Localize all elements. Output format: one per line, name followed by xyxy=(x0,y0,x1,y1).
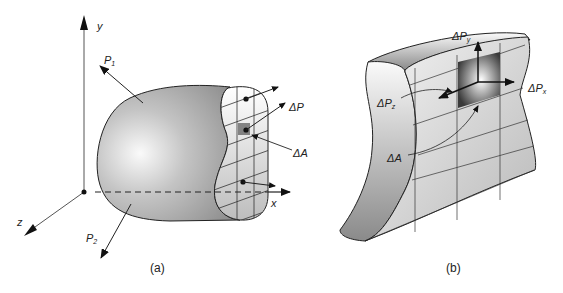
x-axis-label: x xyxy=(270,197,277,209)
delta-px-label: ΔPx xyxy=(527,82,547,95)
p1-label: P1 xyxy=(104,54,115,67)
stress-diagram: y x z P1 P2 ΔP ΔA (a) xyxy=(0,0,563,293)
force-p1-arrow xyxy=(100,66,143,103)
caption-a: (a) xyxy=(150,261,165,275)
delta-py-label: ΔPy xyxy=(451,30,471,44)
delta-p-label: ΔP xyxy=(288,101,304,113)
delta-a-label: ΔA xyxy=(292,147,308,159)
z-axis xyxy=(28,192,84,232)
panel-a: y x z P1 P2 ΔP ΔA (a) xyxy=(16,15,308,275)
p2-label: P2 xyxy=(86,232,97,245)
caption-b: (b) xyxy=(446,261,461,275)
delta-a-label-b: ΔA xyxy=(386,152,402,164)
z-axis-label: z xyxy=(16,216,23,228)
force-p2-arrow xyxy=(101,204,131,258)
origin-dot xyxy=(82,190,87,195)
panel-b: ΔPy ΔPx ΔPz ΔA (b) xyxy=(340,30,547,275)
y-axis-label: y xyxy=(96,20,104,32)
